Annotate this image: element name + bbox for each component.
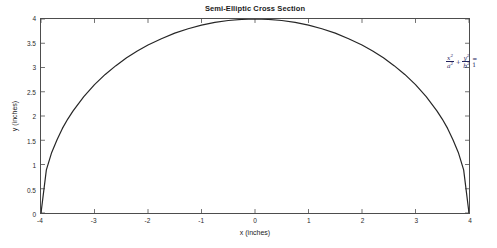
y-tick-label: 3 [32,64,36,71]
y-tick-label: 0.5 [27,186,36,193]
x-tick-label: -2 [145,217,151,224]
x-tick-label: -1 [198,217,204,224]
ellipse-equation-annotation: x2 a2 + y2 b2 = 1 [446,55,477,69]
plot-area: x2 a2 + y2 b2 = 1 [40,18,470,214]
x-tick-label: 4 [468,217,472,224]
exponent-x: 2 [450,53,453,58]
x-tick-label: -4 [37,217,43,224]
y-tick-label: 4 [32,15,36,22]
series-semi-ellipse [41,19,469,213]
x-tick-label: 2 [361,217,365,224]
y-tick-label: 1.5 [27,137,36,144]
equation-plus-sign: + [456,59,461,65]
fraction-y-over-b: y2 b2 [462,55,470,69]
page-title: Semi-Elliptic Cross Section [40,4,470,13]
y-tick-label: 2 [32,113,36,120]
y-tick-label: 1 [32,162,36,169]
equation-equals-one: = 1 [472,56,477,68]
tick-marks [41,19,469,213]
x-tick-label: -3 [91,217,97,224]
y-tick-label: 2.5 [27,88,36,95]
x-axis-label: x (inches) [40,229,470,236]
x-tick-label: 1 [307,217,311,224]
exponent-a: 2 [451,61,454,66]
x-tick-label: 0 [253,217,257,224]
exponent-y: 2 [467,53,470,58]
y-axis-label: y (inches) [11,101,18,131]
equation-denominator-a: a2 [446,62,454,68]
equation-denominator-b: b2 [462,62,470,68]
y-tick-label: 0 [32,211,36,218]
exponent-b: 2 [467,61,470,66]
y-tick-label: 3.5 [27,39,36,46]
plot-svg [41,19,469,213]
figure-canvas: Semi-Elliptic Cross Section x2 a2 + y2 b… [0,0,497,248]
fraction-x-over-a: x2 a2 [446,55,454,69]
x-tick-label: 3 [414,217,418,224]
